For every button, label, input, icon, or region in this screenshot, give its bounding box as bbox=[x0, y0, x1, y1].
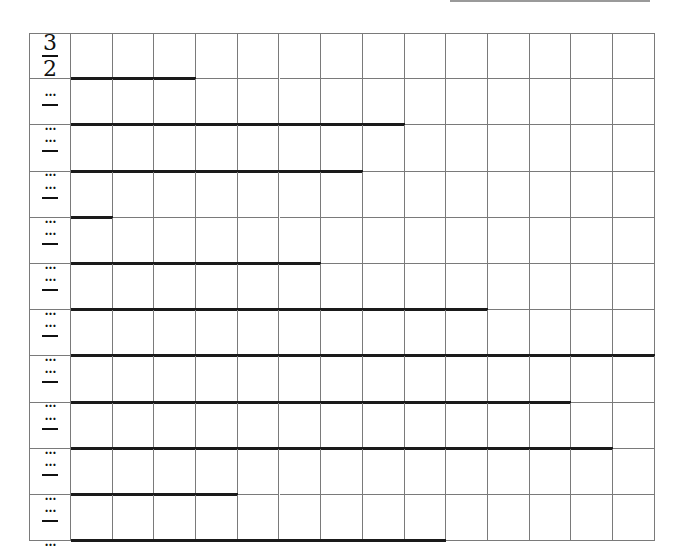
grid-cell bbox=[530, 125, 572, 171]
grid-cell bbox=[405, 310, 447, 356]
grid-cell bbox=[571, 449, 613, 495]
grid-cell bbox=[71, 449, 113, 495]
grid-cell bbox=[363, 403, 405, 449]
grid-cell bbox=[446, 33, 488, 79]
grid-cell bbox=[613, 264, 655, 310]
grid-cell bbox=[488, 449, 530, 495]
grid-cell bbox=[71, 356, 113, 402]
fraction-numerator: 3 bbox=[43, 33, 57, 53]
fraction-numerator: … bbox=[45, 88, 56, 96]
fraction-bar bbox=[42, 104, 58, 106]
grid-cell bbox=[405, 403, 447, 449]
grid-cell bbox=[530, 79, 572, 125]
fraction-numerator: … bbox=[45, 227, 56, 235]
grid-cell bbox=[363, 310, 405, 356]
grid-cell bbox=[154, 264, 196, 310]
fraction-label: …… bbox=[29, 495, 71, 541]
grid-cell bbox=[196, 172, 238, 218]
fraction-numerator: … bbox=[45, 181, 56, 189]
grid-cell bbox=[238, 33, 280, 79]
grid-cell bbox=[321, 310, 363, 356]
grid-cell bbox=[488, 79, 530, 125]
grid-cell bbox=[196, 264, 238, 310]
grid-cell bbox=[446, 125, 488, 171]
grid-cell bbox=[405, 79, 447, 125]
grid-cell bbox=[238, 495, 280, 541]
grid-cell bbox=[446, 449, 488, 495]
grid-cell bbox=[113, 172, 155, 218]
grid-cell bbox=[113, 33, 155, 79]
fraction-label: …… bbox=[29, 310, 71, 356]
grid-cell bbox=[154, 310, 196, 356]
grid-cell bbox=[488, 403, 530, 449]
grid-cell bbox=[196, 495, 238, 541]
grid-cell bbox=[363, 356, 405, 402]
grid-cell bbox=[446, 356, 488, 402]
grid-cell bbox=[613, 172, 655, 218]
grid-cell bbox=[113, 310, 155, 356]
grid-cell bbox=[196, 403, 238, 449]
grid-cell bbox=[280, 79, 322, 125]
grid-cell bbox=[613, 79, 655, 125]
grid-cell bbox=[196, 79, 238, 125]
grid-cell bbox=[488, 310, 530, 356]
grid-cell bbox=[571, 218, 613, 264]
grid-cell bbox=[613, 33, 655, 79]
grid-cell bbox=[488, 356, 530, 402]
fraction-numerator: … bbox=[45, 319, 56, 327]
grid-cell bbox=[154, 449, 196, 495]
length-bar bbox=[71, 539, 446, 542]
fraction-bar bbox=[42, 289, 58, 291]
grid-cell bbox=[530, 495, 572, 541]
grid-cell bbox=[405, 495, 447, 541]
grid-cell bbox=[321, 403, 363, 449]
grid-cell bbox=[446, 79, 488, 125]
grid-cell bbox=[154, 125, 196, 171]
grid-cell bbox=[613, 403, 655, 449]
grid-cell bbox=[238, 172, 280, 218]
grid-cell bbox=[613, 449, 655, 495]
grid-cell bbox=[571, 125, 613, 171]
fraction-bar bbox=[42, 520, 58, 522]
grid-cell bbox=[405, 125, 447, 171]
grid-cell bbox=[571, 33, 613, 79]
grid-cell bbox=[488, 495, 530, 541]
grid-cell bbox=[238, 356, 280, 402]
grid-cell bbox=[321, 33, 363, 79]
fraction-bar bbox=[42, 381, 58, 383]
grid-cell bbox=[196, 218, 238, 264]
fraction-bar bbox=[42, 243, 58, 245]
grid-cell bbox=[113, 449, 155, 495]
grid-cell bbox=[613, 125, 655, 171]
fraction-label: …… bbox=[29, 172, 71, 218]
fraction-label: …… bbox=[29, 218, 71, 264]
grid-cell bbox=[530, 356, 572, 402]
grid-cell bbox=[446, 264, 488, 310]
grid-cell bbox=[405, 33, 447, 79]
grid-cell bbox=[71, 264, 113, 310]
grid-cell bbox=[196, 125, 238, 171]
grid-cell bbox=[154, 172, 196, 218]
grid-cell bbox=[113, 356, 155, 402]
grid-cell bbox=[571, 495, 613, 541]
grid-cell bbox=[113, 125, 155, 171]
grid-cell bbox=[446, 495, 488, 541]
grid-cell bbox=[613, 495, 655, 541]
grid-cell bbox=[363, 33, 405, 79]
fraction-label: …… bbox=[29, 356, 71, 402]
grid-cell bbox=[113, 79, 155, 125]
grid-cell bbox=[405, 449, 447, 495]
grid-cell bbox=[488, 264, 530, 310]
grid-cell bbox=[321, 495, 363, 541]
fraction-denominator: … bbox=[45, 538, 56, 546]
grid-cell bbox=[321, 218, 363, 264]
grid-cell bbox=[488, 125, 530, 171]
grid-cell bbox=[280, 33, 322, 79]
grid-cell bbox=[71, 172, 113, 218]
grid-cell bbox=[196, 310, 238, 356]
grid-cell bbox=[154, 218, 196, 264]
grid-cell bbox=[71, 218, 113, 264]
grid-cell bbox=[613, 310, 655, 356]
grid-cell bbox=[71, 125, 113, 171]
grid-cell bbox=[363, 264, 405, 310]
